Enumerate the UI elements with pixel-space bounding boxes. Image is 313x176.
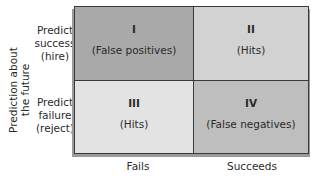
quadrant-numeral: IV — [194, 97, 308, 109]
quadrant-iii-hits: III (Hits) — [75, 81, 193, 153]
row-label-line: failure — [34, 109, 76, 122]
quadrant-description: (Hits) — [75, 118, 193, 130]
quadrant-numeral: II — [194, 23, 308, 35]
quadrant-ii-hits: II (Hits) — [194, 7, 308, 80]
y-axis-label-line1: Prediction about — [7, 47, 19, 133]
y-axis-label: Prediction about the future — [2, 40, 36, 140]
row-label-line: (hire) — [34, 50, 76, 63]
row-label-line: (reject) — [34, 122, 76, 135]
row-label-line: Predict — [34, 96, 76, 109]
row-label-predict-failure: Predict failure (reject) — [34, 96, 76, 135]
row-label-line: success — [34, 37, 76, 50]
column-label-succeeds: Succeeds — [222, 160, 282, 172]
row-label-line: Predict — [34, 24, 76, 37]
row-label-predict-success: Predict success (hire) — [34, 24, 76, 63]
quadrant-description: (False positives) — [75, 44, 193, 56]
quadrant-iv-false-negatives: IV (False negatives) — [194, 81, 308, 153]
quadrant-grid: I (False positives) II (Hits) III (Hits)… — [74, 6, 309, 154]
quadrant-numeral: III — [75, 97, 193, 109]
quadrant-numeral: I — [75, 23, 193, 35]
horizontal-divider — [75, 80, 308, 81]
quadrant-i-false-positives: I (False positives) — [75, 7, 193, 80]
column-label-fails: Fails — [113, 160, 163, 172]
y-axis-label-line2: the future — [19, 47, 31, 133]
quadrant-description: (False negatives) — [194, 118, 308, 130]
quadrant-description: (Hits) — [194, 44, 308, 56]
